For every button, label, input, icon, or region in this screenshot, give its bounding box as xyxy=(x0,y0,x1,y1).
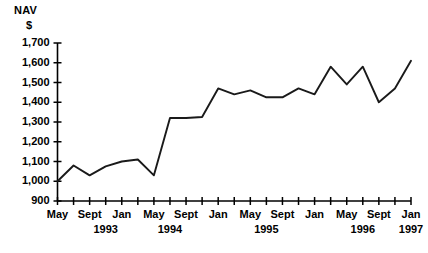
nav-line-chart: NAV $ 1,7001,6001,5001,4001,3001,2001,10… xyxy=(0,0,428,253)
nav-data-series xyxy=(58,61,412,181)
plot-area xyxy=(0,0,428,253)
